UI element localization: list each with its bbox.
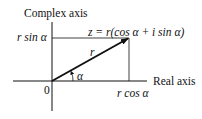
vector-r-label: r (90, 47, 94, 59)
r-sin-alpha-label: r sin α (17, 32, 47, 44)
r-cos-alpha-label: r cos α (117, 88, 149, 100)
real-axis-label: Real axis (153, 76, 195, 88)
vector-r-arrow (52, 39, 128, 82)
equation-label: z = r(cos α + i sin α) (88, 27, 184, 39)
complex-axis-label: Complex axis (24, 8, 88, 20)
complex-plane-diagram: Complex axis z = r(cos α + i sin α) r si… (0, 0, 202, 119)
angle-arc (72, 73, 74, 82)
origin-label: 0 (44, 85, 50, 97)
angle-alpha-label: α (77, 71, 83, 83)
